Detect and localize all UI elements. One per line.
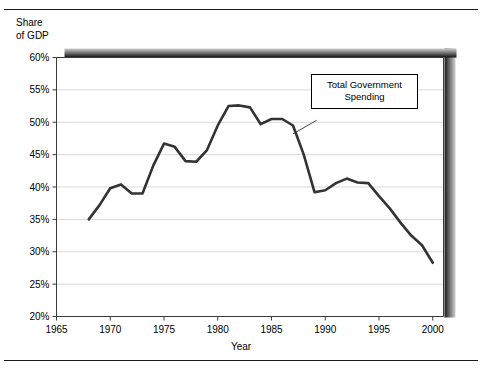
y-tick-label: 30%: [29, 246, 49, 257]
x-tick-label: 1975: [153, 324, 176, 335]
x-axis-tick-labels: 19651970197519801985199019952000: [45, 324, 444, 335]
y-tick-label: 55%: [29, 84, 49, 95]
x-tick-label: 1985: [260, 324, 283, 335]
x-tick-label: 1970: [99, 324, 122, 335]
x-tick-label: 1965: [45, 324, 68, 335]
y-tick-label: 20%: [29, 311, 49, 322]
data-series-line: [89, 105, 433, 262]
line-chart: 20%25%30%35%40%45%50%55%60% 196519701975…: [0, 0, 482, 370]
total-government-spending-callout: Total Government Spending: [311, 74, 418, 109]
x-tick-label: 1995: [368, 324, 391, 335]
y-tick-label: 45%: [29, 149, 49, 160]
x-axis-title: Year: [0, 341, 482, 352]
x-tick-label: 1990: [314, 324, 337, 335]
plot-area: 20%25%30%35%40%45%50%55%60% 196519701975…: [0, 0, 482, 370]
figure: Share of GDP 20%25%30%35%40%45%50%55%60%…: [0, 0, 482, 370]
x-tick-label: 2000: [422, 324, 445, 335]
y-tick-label: 25%: [29, 279, 49, 290]
series-total-government-spending: [89, 105, 433, 262]
y-tick-label: 50%: [29, 117, 49, 128]
y-tick-label: 40%: [29, 182, 49, 193]
y-axis-tick-labels: 20%25%30%35%40%45%50%55%60%: [29, 52, 49, 322]
y-tick-label: 35%: [29, 214, 49, 225]
y-tick-label: 60%: [29, 52, 49, 63]
x-tick-label: 1980: [207, 324, 230, 335]
